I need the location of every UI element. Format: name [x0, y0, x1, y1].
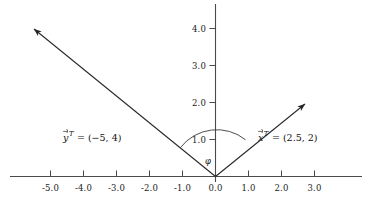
vector-diagram-figure: -5.0 -4.0 -3.0 -2.0 -1.0 0.0 1.0 2.0 3.0… — [0, 0, 371, 209]
x-vector-symbol: x — [258, 132, 263, 143]
x-tick-label: 1.0 — [241, 183, 255, 193]
x-tick-label: 3.0 — [307, 183, 321, 193]
x-tick-label: -3.0 — [108, 183, 125, 193]
y-tick-label: 4.0 — [186, 24, 206, 34]
y-vector-superscript: T — [69, 130, 74, 138]
y-tick-label: 2.0 — [186, 98, 206, 108]
x-axis-ticks — [51, 171, 315, 177]
x-vector-label: xT=(2.5, 2) — [258, 131, 317, 143]
angle-phi-label: φ — [205, 156, 211, 166]
x-tick-label: 2.0 — [274, 183, 288, 193]
y-vector-label: yT=(−5, 4) — [63, 131, 121, 143]
x-tick-label: 0.0 — [208, 183, 222, 193]
x-vector-superscript: T — [264, 130, 269, 138]
y-tick-label: 1.0 — [186, 135, 206, 145]
y-tick-label: 3.0 — [186, 61, 206, 71]
y-vector-tuple: (−5, 4) — [88, 132, 122, 143]
y-axis-ticks — [210, 29, 216, 140]
x-tick-label: -5.0 — [42, 183, 59, 193]
x-tick-label: -1.0 — [174, 183, 191, 193]
x-vector-equals: = — [272, 132, 280, 143]
x-vector-tuple: (2.5, 2) — [283, 132, 318, 143]
x-tick-label: -2.0 — [141, 183, 158, 193]
x-tick-label: -4.0 — [75, 183, 92, 193]
y-vector-equals: = — [77, 132, 85, 143]
y-vector-symbol: y — [63, 132, 68, 143]
